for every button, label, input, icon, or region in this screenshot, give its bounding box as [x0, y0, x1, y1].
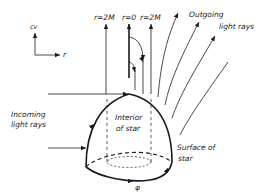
- surface-label-line2: star: [178, 154, 193, 163]
- vertical-axis-label: cv: [30, 23, 37, 32]
- interior-label-line2: of star: [116, 124, 140, 133]
- interior-label-line1: Interior: [115, 113, 142, 122]
- outgoing-label-line1: Outgoing: [189, 10, 224, 19]
- trapped-rays: [129, 37, 143, 94]
- incoming-label-line2: light rays: [11, 120, 46, 129]
- incoming-label-line1: Incoming: [11, 110, 46, 119]
- r-2m-left-label: r=2M: [94, 13, 115, 22]
- phi-angle-label: φ: [135, 183, 140, 192]
- world-lines: [106, 24, 151, 94]
- r-0-label: r=0: [122, 13, 136, 22]
- horizontal-axis-label: r: [63, 50, 66, 59]
- surface-label-line1: Surface of: [177, 143, 215, 152]
- star-surface: [86, 94, 172, 181]
- collapse-spacetime-diagram: cv r r=2M r=0 r=2M Outgoing light rays I…: [0, 0, 264, 193]
- outgoing-rays: [158, 13, 228, 135]
- outgoing-label-line2: light rays: [219, 22, 254, 31]
- r-2m-right-label: r=2M: [140, 13, 161, 22]
- axes-icon: [35, 33, 60, 55]
